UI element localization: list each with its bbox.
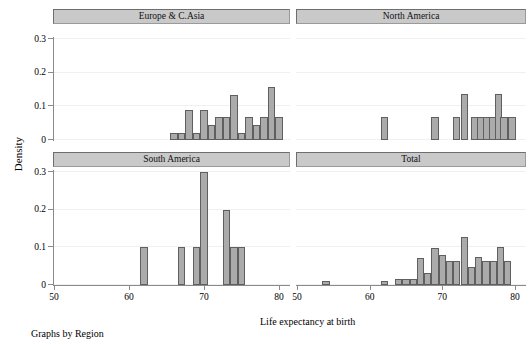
y-axis-tick-label: 0.2 <box>18 205 46 215</box>
gridline <box>296 72 526 73</box>
histogram-bar <box>395 279 402 285</box>
y-axis-tick <box>48 105 53 106</box>
figure-footnote: Graphs by Region <box>31 328 104 339</box>
histogram-bar <box>468 267 475 285</box>
y-axis-tick <box>48 139 53 140</box>
histogram-bar <box>424 273 431 285</box>
y-axis-tick-label: 0.1 <box>18 243 46 253</box>
histogram-bar <box>223 210 231 285</box>
histogram-bar <box>381 281 388 285</box>
histogram-bar <box>490 261 497 285</box>
histogram-bar <box>431 117 438 140</box>
x-axis-title: Life expectancy at birth <box>260 316 355 327</box>
histogram-bar <box>497 247 504 285</box>
figure-root: Density Europe & C.Asia 00.10.20.3 North… <box>0 0 529 345</box>
y-axis-tick-label: 0 <box>18 136 46 146</box>
x-axis-tick <box>204 286 205 290</box>
histogram-bar <box>453 117 460 140</box>
histogram-bar <box>245 117 253 140</box>
x-axis-tick-label: 60 <box>358 292 382 302</box>
x-axis-tick-label: 60 <box>117 292 141 302</box>
y-axis-tick <box>48 72 53 73</box>
panel-title-europe-c-asia: Europe & C.Asia <box>53 9 290 24</box>
histogram-bar <box>504 261 511 285</box>
x-axis-tick <box>297 286 298 290</box>
y-axis-tick <box>48 38 53 39</box>
histogram-bar <box>453 261 460 285</box>
x-axis-tick-label: 70 <box>192 292 216 302</box>
gridline <box>296 105 526 106</box>
histogram-bar <box>223 117 231 140</box>
histogram-bar <box>508 117 515 140</box>
histogram-bar <box>322 281 329 285</box>
x-axis-tick <box>370 286 371 290</box>
histogram-bar <box>185 110 193 140</box>
x-axis-tick <box>442 286 443 290</box>
histogram-bar <box>381 117 388 140</box>
histogram-bar <box>439 255 446 285</box>
plot-area-north-america <box>296 37 526 141</box>
plot-area-south-america: 00.10.20.350607080 <box>53 170 290 286</box>
histogram-bar <box>140 247 148 285</box>
x-axis-tick-label: 50 <box>285 292 309 302</box>
y-axis-tick-label: 0.1 <box>18 102 46 112</box>
histogram-bar <box>193 247 201 285</box>
y-axis-tick-label: 0 <box>18 281 46 291</box>
y-axis-tick-label: 0.2 <box>18 68 46 78</box>
gridline <box>296 209 526 210</box>
histogram-bar <box>475 257 482 285</box>
histogram-bar <box>170 133 178 140</box>
histogram-bar <box>193 133 201 140</box>
plot-area-total: 50607080 <box>296 170 526 286</box>
x-axis-line <box>53 285 290 286</box>
x-axis-tick <box>279 286 280 290</box>
histogram-bar <box>238 133 246 140</box>
histogram-bar <box>253 125 261 140</box>
histogram-bar <box>200 172 208 285</box>
gridline <box>53 72 290 73</box>
histogram-bar <box>461 237 468 285</box>
histogram-bar <box>268 87 276 140</box>
y-axis-tick <box>48 246 53 247</box>
histogram-bar <box>431 248 438 285</box>
panel-europe-c-asia: Europe & C.Asia 00.10.20.3 <box>53 9 290 141</box>
histogram-bar <box>482 261 489 285</box>
y-axis-tick <box>48 209 53 210</box>
y-axis-tick <box>48 171 53 172</box>
panel-title-total: Total <box>296 152 526 167</box>
histogram-bar <box>410 279 417 285</box>
histogram-bar <box>446 261 453 285</box>
x-axis-tick <box>515 286 516 290</box>
histogram-bar <box>500 117 507 140</box>
histogram-bar <box>208 125 216 140</box>
histogram-bar <box>230 95 238 140</box>
panel-south-america: South America 00.10.20.350607080 <box>53 152 290 294</box>
gridline <box>53 209 290 210</box>
y-axis-line <box>53 170 54 286</box>
panel-north-america: North America <box>296 9 526 141</box>
y-axis-tick-label: 0.3 <box>18 168 46 178</box>
histogram-bar <box>178 247 186 285</box>
histogram-bar <box>230 247 238 285</box>
histogram-bar <box>215 117 223 140</box>
histogram-bar <box>260 117 268 140</box>
x-axis-tick-label: 80 <box>503 292 527 302</box>
histogram-bar <box>238 247 246 285</box>
x-axis-tick-label: 70 <box>430 292 454 302</box>
x-axis-tick-label: 50 <box>42 292 66 302</box>
panel-title-south-america: South America <box>53 152 290 167</box>
panel-total: Total 50607080 <box>296 152 526 294</box>
histogram-bar <box>178 133 186 140</box>
histogram-bar <box>275 117 283 140</box>
histogram-bar <box>461 94 468 140</box>
gridline <box>53 105 290 106</box>
y-axis-tick-label: 0.3 <box>18 35 46 45</box>
gridline <box>296 38 526 39</box>
y-axis-line <box>53 37 54 141</box>
x-axis-line <box>296 285 526 286</box>
gridline <box>296 246 526 247</box>
histogram-bar <box>200 110 208 140</box>
gridline <box>53 38 290 39</box>
gridline <box>53 246 290 247</box>
histogram-bar <box>417 258 424 285</box>
